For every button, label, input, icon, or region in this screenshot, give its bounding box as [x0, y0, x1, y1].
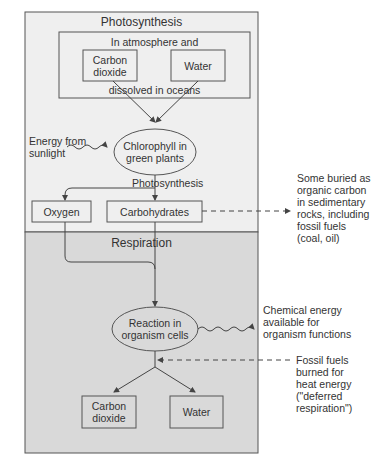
fossil-burned-note: Fossil fuels burned for heat energy ("de…: [296, 354, 352, 414]
oxygen-label: Oxygen: [32, 206, 91, 218]
oceans-label: dissolved in oceans: [59, 84, 250, 96]
co2-bottom-label: Carbon dioxide: [82, 400, 136, 424]
carbohydrates-label: Carbohydrates: [107, 206, 202, 218]
buried-note: Some buried as organic carbon in sedimen…: [297, 172, 371, 244]
energy-from-sunlight-label: Energy from sunlight: [29, 135, 86, 159]
chlorophyll-label: Chlorophyll in green plants: [114, 140, 196, 164]
water-bottom-label: Water: [170, 406, 223, 418]
water-top-label: Water: [171, 60, 225, 72]
reaction-label: Reaction in organism cells: [112, 317, 198, 341]
co2-top-label: Carbon dioxide: [83, 54, 137, 78]
photosynthesis-title: Photosynthesis: [25, 16, 258, 28]
photosynthesis-process-label: Photosynthesis: [132, 177, 203, 189]
chemical-energy-note: Chemical energy available for organism f…: [263, 304, 351, 340]
atmosphere-label: In atmosphere and: [59, 36, 250, 48]
respiration-title: Respiration: [25, 237, 258, 249]
